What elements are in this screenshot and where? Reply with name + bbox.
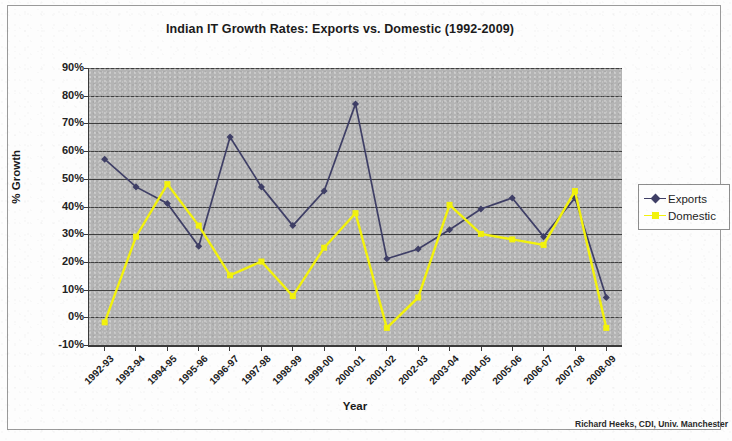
- y-axis-tick-label: 20%: [40, 255, 84, 267]
- y-axis-tick-label: 30%: [40, 227, 84, 239]
- x-axis-tick-mark: [135, 346, 136, 351]
- x-axis-tick-mark: [355, 346, 356, 351]
- data-point: [290, 293, 296, 299]
- data-point: [321, 245, 327, 251]
- chart-screenshot: Indian IT Growth Rates: Exports vs. Dome…: [0, 0, 732, 441]
- data-point: [478, 231, 484, 237]
- series-lines: [89, 68, 622, 344]
- x-axis-tick-mark: [324, 346, 325, 351]
- y-axis-tick-label: 70%: [40, 116, 84, 128]
- data-point: [447, 202, 453, 208]
- data-point: [415, 294, 421, 300]
- x-axis-tick-mark: [543, 346, 544, 351]
- legend-label: Exports: [668, 193, 707, 205]
- y-axis-tick-label: 40%: [40, 200, 84, 212]
- y-axis-tick-label: 90%: [40, 61, 84, 73]
- data-point: [227, 272, 233, 278]
- x-axis-tick-mark: [198, 346, 199, 351]
- legend-item-domestic: Domestic: [642, 207, 725, 224]
- x-axis-tick-mark: [104, 346, 105, 351]
- x-axis-title: Year: [88, 400, 622, 412]
- x-axis-tick-mark: [606, 346, 607, 351]
- data-point: [258, 259, 264, 265]
- y-axis-tick-label: 10%: [40, 283, 84, 295]
- data-point: [164, 181, 170, 187]
- chart-legend: ExportsDomestic: [638, 184, 730, 230]
- x-axis-tick-mark: [167, 346, 168, 351]
- data-point: [603, 294, 610, 301]
- y-axis-title: % Growth: [10, 150, 34, 204]
- data-point: [541, 242, 547, 248]
- data-point: [352, 210, 358, 216]
- y-axis-tick-label: 80%: [40, 89, 84, 101]
- data-point: [196, 223, 202, 229]
- legend-label: Domestic: [668, 210, 716, 222]
- y-axis-tick-label: 60%: [40, 144, 84, 156]
- legend-marker-icon: [642, 210, 668, 222]
- x-axis-tick-mark: [386, 346, 387, 351]
- legend-item-exports: Exports: [642, 190, 725, 207]
- data-point: [384, 325, 390, 331]
- data-point: [383, 255, 390, 262]
- y-axis-tick-label: 0%: [40, 310, 84, 322]
- x-axis-tick-mark: [575, 346, 576, 351]
- data-point: [572, 188, 578, 194]
- y-axis-tick-label: 50%: [40, 172, 84, 184]
- data-point: [603, 325, 609, 331]
- x-axis-tick-mark: [512, 346, 513, 351]
- data-point: [352, 100, 359, 107]
- x-axis-tick-mark: [229, 346, 230, 351]
- x-axis-tick-mark: [481, 346, 482, 351]
- x-axis-tick-mark: [418, 346, 419, 351]
- x-axis-tick-mark: [292, 346, 293, 351]
- x-axis-tick-mark: [261, 346, 262, 351]
- credit-line: Richard Heeks, CDI, Univ. Manchester: [575, 419, 728, 429]
- chart-title: Indian IT Growth Rates: Exports vs. Dome…: [60, 22, 620, 36]
- series-line-domestic: [105, 184, 607, 328]
- legend-marker-icon: [642, 193, 668, 205]
- data-point: [133, 234, 139, 240]
- plot-area: [88, 68, 622, 345]
- y-axis-tick-labels: 90%80%70%60%50%40%30%20%10%0%-10%: [36, 68, 84, 345]
- data-point: [509, 236, 515, 242]
- data-point: [102, 319, 108, 325]
- x-axis-tick-mark: [449, 346, 450, 351]
- y-axis-tick-label: -10%: [40, 338, 84, 350]
